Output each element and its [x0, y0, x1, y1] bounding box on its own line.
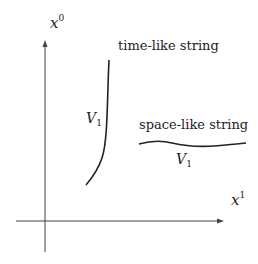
x0-arrowhead-icon: [43, 40, 48, 47]
time-like-volume-label: V1: [86, 110, 102, 126]
x0-axis-label: x0: [50, 14, 64, 32]
space-like-string-curve: [139, 141, 246, 146]
x1-arrowhead-icon: [217, 219, 224, 224]
space-like-volume-label: V1: [176, 151, 192, 167]
time-like-string-label: time-like string: [118, 38, 219, 53]
space-like-string-label: space-like string: [139, 117, 248, 132]
x1-axis-label: x1: [231, 191, 245, 209]
